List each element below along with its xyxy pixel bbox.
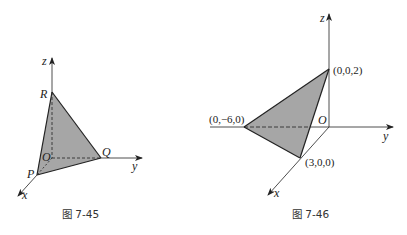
diagram-canvas: z y x R Q P O 图 7-45 z y x O (0,0,2) (0,… bbox=[0, 0, 407, 235]
x-axis-label: x bbox=[21, 188, 28, 202]
y-axis-label: y bbox=[382, 129, 389, 143]
figure-7-46: z y x O (0,0,2) (0,−6,0) (3,0,0) 图 7-46 bbox=[209, 11, 393, 220]
figure-7-45: z y x R Q P O 图 7-45 bbox=[18, 54, 142, 220]
origin-label: O bbox=[42, 150, 51, 164]
x-axis-label: x bbox=[273, 186, 280, 200]
figure-caption: 图 7-45 bbox=[62, 208, 99, 220]
y-axis-label: y bbox=[131, 159, 138, 173]
vertex-q-label: Q bbox=[102, 145, 111, 159]
vertex-r-label: R bbox=[39, 87, 48, 101]
z-axis-label: z bbox=[319, 11, 325, 25]
triangle-intercepts bbox=[244, 69, 329, 158]
vertex-z-intercept-label: (0,0,2) bbox=[333, 64, 363, 77]
vertex-y-intercept-label: (0,−6,0) bbox=[209, 113, 245, 126]
figure-caption: 图 7-46 bbox=[292, 208, 329, 220]
vertex-x-intercept-label: (3,0,0) bbox=[305, 156, 335, 169]
origin-label: O bbox=[318, 113, 327, 127]
z-axis-label: z bbox=[41, 54, 47, 68]
vertex-p-label: P bbox=[26, 167, 35, 181]
